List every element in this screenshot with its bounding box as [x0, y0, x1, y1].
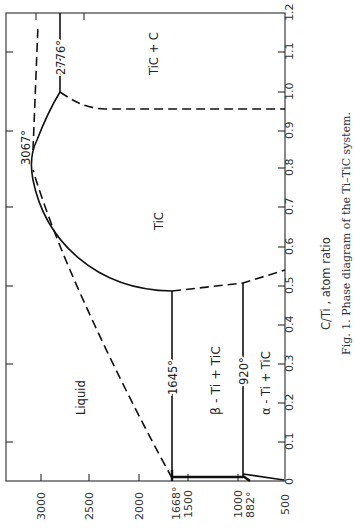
svg-text:2500: 2500: [83, 492, 96, 520]
svg-text:0.4: 0.4: [283, 316, 296, 334]
svg-text:3000: 3000: [35, 492, 48, 520]
composition-axis-title: C/Ti , atom ratio: [319, 237, 333, 330]
svg-text:0.7: 0.7: [283, 198, 296, 216]
svg-text:1.1: 1.1: [283, 43, 296, 61]
phase-diagram: 0 0.1 0.2 0.3 0.4 0.5 0.6 0.7 0.8 0.9 1.…: [0, 0, 354, 530]
svg-text:0.2: 0.2: [283, 394, 296, 412]
svg-text:0.9: 0.9: [283, 122, 296, 140]
phase-boundaries: [31, 13, 285, 481]
tic-upper-boundary: [60, 92, 285, 109]
svg-text:1500: 1500: [182, 490, 195, 518]
liquidus-c-side: [33, 25, 38, 150]
svg-text:0: 0: [283, 478, 296, 485]
figure-caption: Fig. 1. Phase diagram of the Ti–TiC syst…: [340, 112, 353, 355]
svg-text:2000: 2000: [133, 492, 146, 520]
svg-text:0.6: 0.6: [283, 238, 296, 256]
label-liquid: Liquid: [74, 380, 88, 415]
svg-text:500: 500: [279, 494, 292, 515]
temperature-tick-labels: 3000 2500 2000 1668° 1500 1000 882° 500: [35, 487, 292, 521]
region-labels: Liquid TiC TiC + C β - Ti + TiC α - Ti +…: [19, 32, 273, 415]
svg-text:0.1: 0.1: [283, 433, 296, 451]
svg-text:0.8: 0.8: [283, 159, 296, 177]
label-alpha: α - Ti + TiC: [259, 351, 273, 415]
label-2776: 2776°: [54, 40, 68, 75]
svg-text:0.3: 0.3: [283, 355, 296, 373]
label-920: 920°: [237, 357, 251, 385]
svg-text:1.2: 1.2: [283, 4, 296, 22]
svg-text:882°: 882°: [244, 492, 257, 519]
label-tic-c: TiC + C: [147, 32, 161, 76]
label-tic: TiC: [152, 212, 166, 231]
tic-lower-boundary: [172, 270, 285, 291]
label-3067: 3067°: [19, 130, 33, 165]
tic-solidus-curve: [31, 92, 172, 291]
label-beta: β - Ti + TiC: [208, 346, 223, 415]
label-1645: 1645°: [166, 360, 180, 395]
svg-text:1.0: 1.0: [283, 83, 296, 101]
svg-text:0.5: 0.5: [283, 277, 296, 295]
